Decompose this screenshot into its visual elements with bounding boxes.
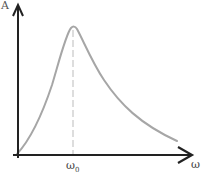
x-axis-label: ω xyxy=(191,159,200,170)
resonance-curve xyxy=(17,27,177,154)
omega0-symbol: ω xyxy=(66,159,75,172)
y-axis-label: A xyxy=(1,0,9,11)
omega0-label: ω0 xyxy=(66,160,79,174)
omega0-subscript: 0 xyxy=(75,166,79,174)
diagram-canvas xyxy=(0,0,204,183)
